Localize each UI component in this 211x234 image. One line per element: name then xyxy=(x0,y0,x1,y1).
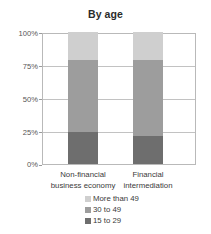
chart-container: By age 100% 75% 50% 25% 0% Non-financial… xyxy=(0,0,211,234)
bar-segment-15-to-29 xyxy=(133,136,163,164)
gridline-75 xyxy=(43,66,195,67)
y-axis-tick-mark-0 xyxy=(39,165,42,166)
bar-segment-more-than-49 xyxy=(133,32,163,60)
chart-legend: More than 49 30 to 49 15 to 29 xyxy=(0,193,211,226)
bar-segment-30-to-49 xyxy=(68,60,98,133)
legend-item-15-to-29[interactable]: 15 to 29 xyxy=(0,215,211,226)
legend-item-30-to-49[interactable]: 30 to 49 xyxy=(0,204,211,215)
legend-swatch-icon xyxy=(85,218,91,224)
y-axis-tick-label-0: 0% xyxy=(4,161,38,169)
gridline-25 xyxy=(43,132,195,133)
x-axis-label-line-1: Financial xyxy=(105,170,191,181)
legend-label: 15 to 29 xyxy=(93,217,121,225)
bar-segment-30-to-49 xyxy=(133,60,163,137)
y-axis-tick-label-50: 50% xyxy=(4,96,38,104)
bar-segment-15-to-29 xyxy=(68,132,98,164)
legend-swatch-icon xyxy=(85,207,91,213)
legend-label: More than 49 xyxy=(93,195,139,203)
bar-non-financial-business-economy xyxy=(68,32,98,164)
x-axis-label-line-2: intermediation xyxy=(105,181,191,192)
y-axis-tick-label-75: 75% xyxy=(4,63,38,71)
y-axis-tick-label-25: 25% xyxy=(4,129,38,137)
legend-label: 30 to 49 xyxy=(93,206,121,214)
legend-swatch-icon xyxy=(85,196,91,202)
legend-item-more-than-49[interactable]: More than 49 xyxy=(0,193,211,204)
x-axis-label-financial-intermediation: Financial intermediation xyxy=(105,170,191,191)
bar-financial-intermediation xyxy=(133,32,163,164)
chart-title: By age xyxy=(0,8,211,20)
gridline-50 xyxy=(43,99,195,100)
plot-area xyxy=(42,33,196,165)
y-axis-tick-label-100: 100% xyxy=(4,30,38,38)
bar-segment-more-than-49 xyxy=(68,32,98,60)
